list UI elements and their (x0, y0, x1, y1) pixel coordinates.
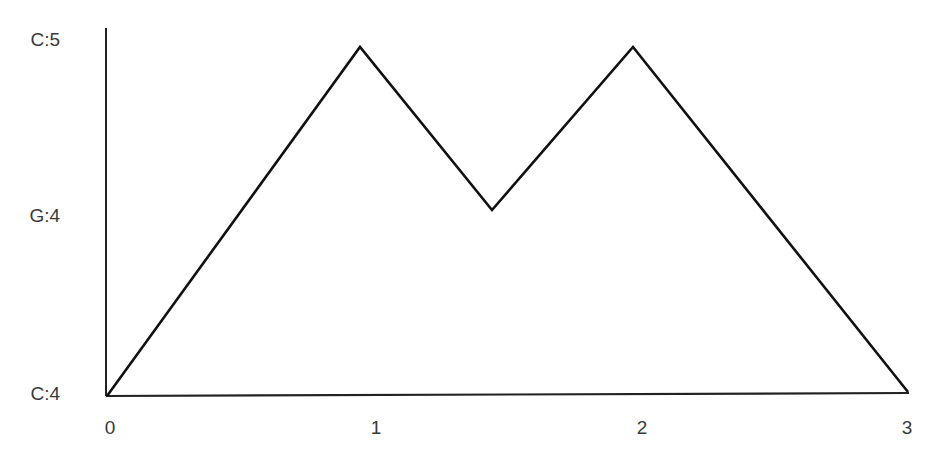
x-tick-1: 1 (361, 418, 391, 437)
x-tick-2: 2 (627, 418, 657, 437)
x-tick-0: 0 (95, 418, 125, 437)
y-tick-c5: C:5 (0, 30, 60, 49)
y-tick-c4: C:4 (0, 384, 60, 403)
x-tick-3: 3 (892, 418, 922, 437)
y-tick-g4: G:4 (0, 206, 60, 225)
x-axis (106, 393, 909, 396)
chart-canvas (0, 0, 941, 467)
contour-line (107, 47, 908, 396)
